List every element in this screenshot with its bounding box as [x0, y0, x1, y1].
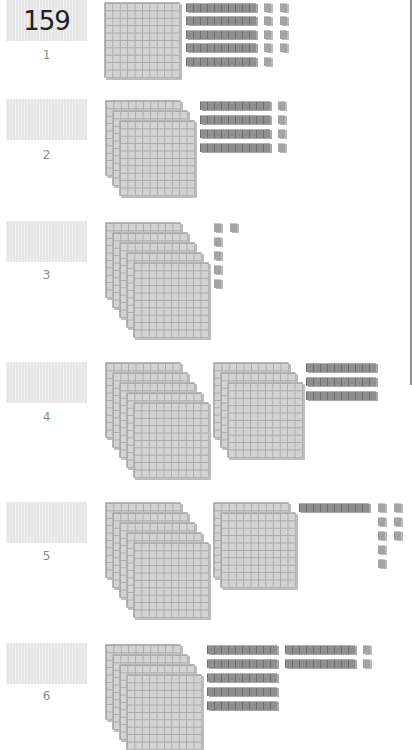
one-unit	[278, 101, 285, 110]
ten-rod	[200, 129, 270, 138]
one-unit	[278, 143, 285, 152]
hundred-flat	[104, 2, 180, 78]
one-unit	[264, 30, 271, 39]
hundred-flat	[126, 674, 202, 750]
answer-box-6[interactable]	[6, 643, 87, 684]
one-unit	[363, 645, 370, 654]
one-unit	[264, 16, 271, 25]
ten-rod	[306, 363, 376, 372]
one-unit	[214, 265, 221, 274]
one-unit	[214, 237, 221, 246]
answer-box-3[interactable]	[6, 221, 87, 262]
ten-rod	[200, 101, 270, 110]
one-unit	[264, 3, 271, 12]
one-unit	[214, 279, 221, 288]
ten-rod	[200, 143, 270, 152]
one-unit	[378, 531, 385, 540]
one-unit	[230, 223, 237, 232]
problem-number-6: 6	[6, 689, 87, 703]
ten-rod	[186, 30, 256, 39]
problem-number-5: 5	[6, 549, 87, 563]
answer-box-2[interactable]	[6, 99, 87, 140]
one-unit	[394, 503, 401, 512]
answer-box-4[interactable]	[6, 362, 87, 403]
ten-rod	[207, 659, 277, 668]
one-unit	[214, 223, 221, 232]
ten-rod	[207, 701, 277, 710]
one-unit	[394, 517, 401, 526]
ten-rod	[207, 645, 277, 654]
one-unit	[394, 531, 401, 540]
problem-number-2: 2	[6, 148, 87, 162]
one-unit	[378, 517, 385, 526]
ten-rod	[285, 645, 355, 654]
ten-rod	[285, 659, 355, 668]
one-unit	[214, 251, 221, 260]
one-unit	[278, 129, 285, 138]
one-unit	[378, 559, 385, 568]
one-unit	[378, 545, 385, 554]
one-unit	[280, 43, 287, 52]
one-unit	[264, 57, 271, 66]
ten-rod	[186, 16, 256, 25]
ten-rod	[207, 673, 277, 682]
ten-rod	[186, 43, 256, 52]
hundred-flat	[133, 262, 209, 338]
one-unit	[378, 503, 385, 512]
ten-rod	[207, 687, 277, 696]
problem-number-3: 3	[6, 268, 87, 282]
ten-rod	[299, 503, 369, 512]
one-unit	[280, 3, 287, 12]
answer-box-1[interactable]: 159	[6, 0, 87, 41]
problem-number-1: 1	[6, 48, 87, 62]
ten-rod	[200, 115, 270, 124]
one-unit	[280, 30, 287, 39]
hundred-flat	[133, 542, 209, 618]
hundred-flat	[227, 382, 303, 458]
ten-rod	[186, 57, 256, 66]
hundred-flat	[220, 512, 296, 588]
ten-rod	[306, 377, 376, 386]
one-unit	[363, 659, 370, 668]
ten-rod	[306, 391, 376, 400]
hundred-flat	[133, 402, 209, 478]
ten-rod	[186, 3, 256, 12]
answer-text-1: 159	[23, 6, 70, 36]
one-unit	[278, 115, 285, 124]
one-unit	[280, 16, 287, 25]
one-unit	[264, 43, 271, 52]
answer-box-5[interactable]	[6, 502, 87, 543]
hundred-flat	[119, 120, 195, 196]
problem-number-4: 4	[6, 410, 87, 424]
